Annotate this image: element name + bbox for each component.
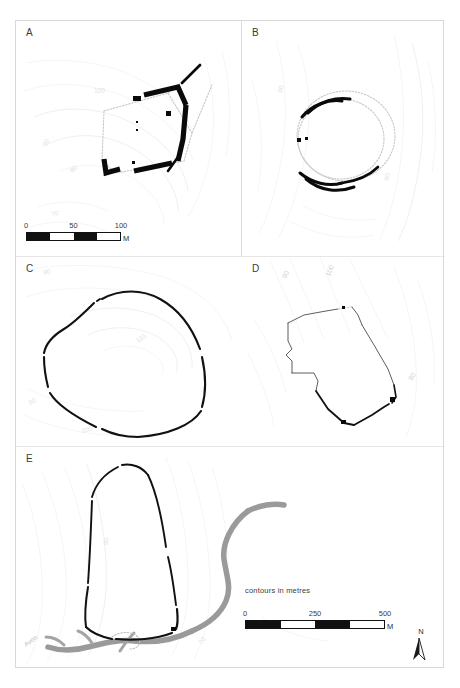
feature-block-a-3 bbox=[182, 124, 186, 128]
contour-label-80-b: 80 bbox=[276, 84, 284, 93]
scalebar-legend-seg-4 bbox=[350, 621, 385, 628]
scalebar-a-seg-3 bbox=[74, 233, 97, 240]
north-arrow-label: N bbox=[408, 628, 434, 636]
contour-label-80-a: 80 bbox=[68, 164, 78, 174]
feature-block-d-1 bbox=[341, 420, 346, 424]
figure-frame: A 100 90 80 70 bbox=[15, 20, 444, 668]
contour-lines-b bbox=[252, 35, 435, 241]
feature-dot-a-1 bbox=[136, 121, 138, 123]
scalebar-a-seg-4 bbox=[97, 233, 120, 240]
contour-label-90-c: 90 bbox=[42, 267, 51, 276]
scalebar-legend-tick-0: 0 bbox=[243, 609, 247, 618]
scalebar-legend-seg-1 bbox=[246, 621, 281, 628]
panel-letter-d: D bbox=[252, 263, 260, 274]
panel-letter-b: B bbox=[252, 27, 259, 38]
scalebar-legend-tick-250: 250 bbox=[309, 609, 322, 618]
cropmark-outline-a bbox=[102, 65, 212, 173]
panel-c-map: 90 110 80 100 bbox=[16, 257, 241, 446]
scalebar-legend-ticks: 0 250 500 bbox=[245, 609, 385, 620]
cropmark-oval-b bbox=[297, 91, 395, 181]
panel-d-map: 90 100 80 bbox=[242, 257, 445, 446]
panel-e-promontory-fort: E 90 70 bbox=[16, 447, 445, 669]
scalebar-legend-tick-500: 500 bbox=[379, 609, 392, 618]
feature-block-e-1 bbox=[171, 627, 176, 631]
contour-label-100-d: 100 bbox=[324, 264, 335, 277]
scalebar-panel-a: 0 50 100 M bbox=[26, 221, 121, 241]
contour-label-80-c: 80 bbox=[27, 396, 37, 406]
feature-block-a-2 bbox=[166, 111, 171, 116]
scalebar-legend-seg-3 bbox=[315, 621, 350, 628]
contour-label-90-d: 90 bbox=[281, 269, 291, 279]
scalebar-a-seg-2 bbox=[50, 233, 73, 240]
scalebar-a-tick-100: 100 bbox=[115, 221, 128, 230]
rampart-circuit-e bbox=[85, 464, 177, 639]
rampart-circuit-d bbox=[286, 307, 396, 425]
scalebar-legend-seg-2 bbox=[281, 621, 316, 628]
panel-letter-a: A bbox=[26, 27, 33, 38]
contour-label-90-e: 90 bbox=[102, 537, 110, 545]
rampart-arcs-b bbox=[300, 99, 378, 191]
feature-block-b-2 bbox=[305, 137, 308, 140]
scalebar-a-unit: M bbox=[123, 234, 129, 243]
contour-lines-e bbox=[22, 457, 328, 665]
scalebar-a-tick-0: 0 bbox=[24, 221, 28, 230]
feature-dot-a-3 bbox=[132, 161, 135, 164]
contour-lines-d bbox=[248, 257, 434, 437]
scalebar-legend-unit: M bbox=[387, 622, 393, 631]
north-arrow: N bbox=[408, 628, 434, 662]
feature-dot-a-2 bbox=[136, 129, 138, 131]
legend-caption: contours in metres bbox=[245, 586, 425, 595]
feature-block-d-3 bbox=[342, 306, 345, 309]
panel-e-map: 90 70 Avon bbox=[16, 447, 445, 669]
river-label-avon: Avon bbox=[22, 633, 38, 648]
scalebar-a-ticks: 0 50 100 bbox=[26, 221, 121, 232]
contour-label-110-c: 110 bbox=[135, 332, 148, 344]
contour-label-70-e: 70 bbox=[197, 635, 207, 645]
scalebar-a-tick-50: 50 bbox=[69, 221, 77, 230]
contour-label-70-a: 70 bbox=[50, 209, 60, 218]
feature-block-b-1 bbox=[297, 138, 301, 142]
panel-d-polygonal-enclosure: D 90 100 80 bbox=[242, 257, 445, 446]
figure-legend: contours in metres 0 250 500 M bbox=[245, 586, 425, 629]
feature-block-d-2 bbox=[390, 397, 395, 402]
north-arrow-icon bbox=[408, 636, 430, 662]
contour-lines-a bbox=[24, 51, 229, 231]
feature-block-a-1 bbox=[133, 96, 141, 101]
panel-b-map: 90 80 bbox=[242, 21, 445, 256]
scalebar-a-seg-1 bbox=[27, 233, 50, 240]
contour-label-80-d: 80 bbox=[407, 371, 417, 381]
scalebar-legend: 0 250 500 M bbox=[245, 609, 385, 629]
panel-c-rounded-hillfort: C 90 110 80 100 bbox=[16, 257, 241, 446]
scalebar-legend-bar: M bbox=[245, 620, 385, 629]
panel-a-rectangular-enclosure: A 100 90 80 70 bbox=[16, 21, 241, 256]
rampart-circuit-c bbox=[44, 292, 205, 438]
contour-label-90-a: 90 bbox=[41, 137, 51, 147]
scalebar-a-bar: M bbox=[26, 232, 121, 241]
contour-label-100-a: 100 bbox=[94, 87, 105, 94]
panel-b-oval-enclosure: B 90 80 bbox=[242, 21, 445, 256]
panel-letter-c: C bbox=[26, 263, 34, 274]
panel-letter-e: E bbox=[26, 453, 33, 464]
contour-label-100-c: 100 bbox=[81, 425, 93, 434]
contour-label-90-b: 90 bbox=[382, 172, 391, 181]
